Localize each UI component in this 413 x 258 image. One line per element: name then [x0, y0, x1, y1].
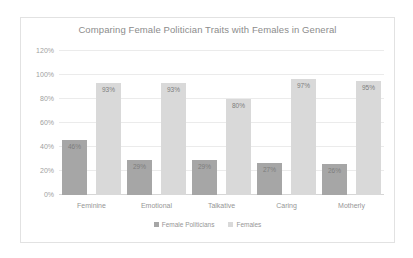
x-axis-category-label: Feminine	[59, 195, 124, 209]
y-axis-tick-label: 60%	[40, 119, 54, 126]
chart-legend: Female PoliticiansFemales	[21, 221, 394, 228]
chart-title: Comparing Female Politician Traits with …	[21, 24, 394, 35]
bar: 95%	[356, 81, 381, 195]
y-axis-tick-label: 0%	[44, 191, 54, 198]
bar-value-label: 97%	[291, 82, 316, 89]
bar-value-label: 29%	[192, 163, 217, 170]
bar-value-label: 26%	[322, 167, 347, 174]
bar: 27%	[257, 163, 282, 195]
y-axis-tick-label: 80%	[40, 95, 54, 102]
y-axis-tick-label: 20%	[40, 167, 54, 174]
bar-group: 29%93%	[124, 51, 189, 195]
y-axis-tick-label: 100%	[36, 71, 54, 78]
bar-group: 29%80%	[189, 51, 254, 195]
bar: 46%	[62, 140, 87, 195]
bar-value-label: 29%	[127, 163, 152, 170]
bar-value-label: 95%	[356, 84, 381, 91]
x-axis-category-label: Caring	[254, 195, 319, 209]
bar-group: 46%93%	[59, 51, 124, 195]
y-axis-tick-label: 40%	[40, 143, 54, 150]
bar: 80%	[226, 99, 251, 195]
bar-value-label: 46%	[62, 143, 87, 150]
legend-label: Female Politicians	[162, 221, 215, 228]
bar: 26%	[322, 164, 347, 195]
bar: 29%	[127, 160, 152, 195]
bar-value-label: 27%	[257, 166, 282, 173]
bar: 97%	[291, 79, 316, 195]
bar-value-label: 93%	[161, 86, 186, 93]
chart-container: Comparing Female Politician Traits with …	[20, 17, 395, 243]
x-axis-category-label: Motherly	[319, 195, 384, 209]
y-axis-tick-label: 120%	[36, 47, 54, 54]
bar-value-label: 93%	[96, 86, 121, 93]
bar: 29%	[192, 160, 217, 195]
plot-area: 0%20%40%60%80%100%120% 46%93%29%93%29%80…	[59, 51, 384, 195]
x-axis-labels: FeminineEmotionalTalkativeCaringMotherly	[59, 195, 384, 209]
bar-value-label: 80%	[226, 102, 251, 109]
bar: 93%	[96, 83, 121, 195]
bar-group: 27%97%	[254, 51, 319, 195]
bar-groups: 46%93%29%93%29%80%27%97%26%95%	[59, 51, 384, 195]
x-axis-category-label: Emotional	[124, 195, 189, 209]
legend-swatch-icon	[228, 222, 233, 227]
legend-label: Females	[236, 221, 261, 228]
x-axis-category-label: Talkative	[189, 195, 254, 209]
bar: 93%	[161, 83, 186, 195]
legend-item[interactable]: Female Politicians	[154, 221, 215, 228]
bar-group: 26%95%	[319, 51, 384, 195]
legend-swatch-icon	[154, 222, 159, 227]
legend-item[interactable]: Females	[228, 221, 261, 228]
